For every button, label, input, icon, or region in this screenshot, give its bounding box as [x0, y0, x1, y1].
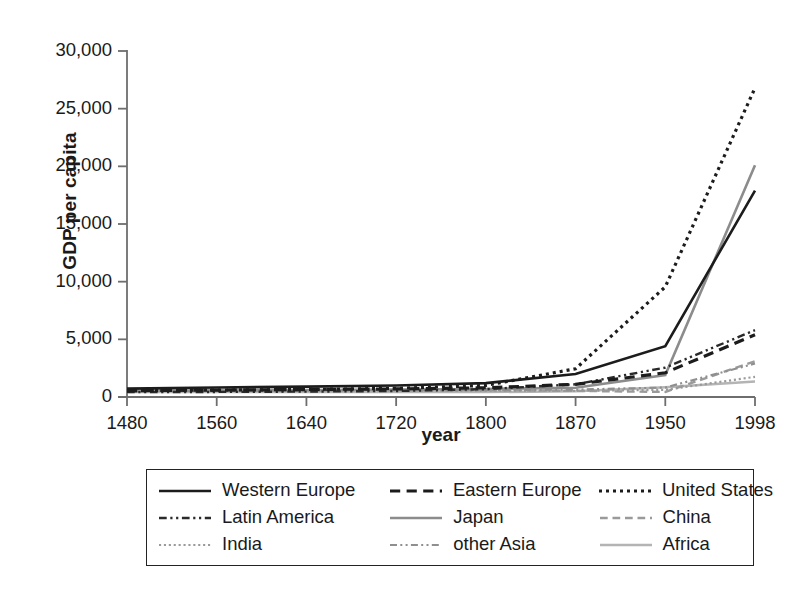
legend-swatch-icon: [157, 538, 213, 552]
legend-row: Western EuropeEastern EuropeUnited State…: [157, 477, 747, 504]
legend-item-africa[interactable]: Africa: [598, 531, 748, 558]
legend-item-western-europe[interactable]: Western Europe: [157, 477, 388, 504]
legend-swatch-icon: [598, 511, 654, 525]
legend-item-eastern-europe[interactable]: Eastern Europe: [388, 477, 597, 504]
legend-row: Indiaother AsiaAfrica: [157, 531, 747, 558]
legend-label: Eastern Europe: [453, 481, 582, 500]
legend-item-united-states[interactable]: United States: [597, 477, 747, 504]
legend-label: Latin America: [222, 508, 334, 527]
legend-swatch-icon: [388, 484, 444, 498]
gdp-per-capita-chart: GDP per capita 05,00010,00015,00020,0002…: [0, 0, 790, 592]
x-axis-title: year: [127, 424, 755, 446]
series-group: [127, 88, 755, 392]
legend-swatch-icon: [157, 511, 213, 525]
legend-label: Western Europe: [222, 481, 355, 500]
plot-area: [0, 0, 790, 460]
legend-item-latin-america[interactable]: Latin America: [157, 504, 388, 531]
series-line-western-europe: [127, 191, 755, 389]
legend-swatch-icon: [388, 511, 444, 525]
legend-item-japan[interactable]: Japan: [388, 504, 597, 531]
series-line-eastern-europe: [127, 335, 755, 391]
legend-item-india[interactable]: India: [157, 531, 388, 558]
legend-swatch-icon: [597, 484, 653, 498]
legend-label: Japan: [453, 508, 503, 527]
legend-row: Latin AmericaJapanChina: [157, 504, 747, 531]
chart-legend: Western EuropeEastern EuropeUnited State…: [146, 469, 754, 566]
legend-item-other-asia[interactable]: other Asia: [388, 531, 597, 558]
series-line-japan: [127, 165, 755, 391]
legend-label: India: [222, 535, 262, 554]
legend-item-china[interactable]: China: [598, 504, 748, 531]
legend-label: Africa: [663, 535, 710, 554]
legend-swatch-icon: [157, 484, 213, 498]
legend-swatch-icon: [598, 538, 654, 552]
series-line-latin-america: [127, 330, 755, 392]
legend-label: United States: [662, 481, 773, 500]
legend-label: other Asia: [453, 535, 535, 554]
series-line-united-states: [127, 88, 755, 391]
legend-swatch-icon: [388, 538, 444, 552]
legend-label: China: [663, 508, 711, 527]
